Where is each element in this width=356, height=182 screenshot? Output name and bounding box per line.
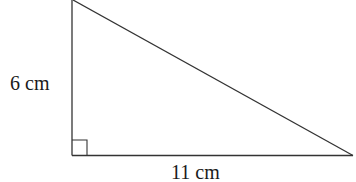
triangle-diagram [0,0,356,182]
hypotenuse [73,0,353,156]
height-label: 6 cm [10,73,49,93]
right-angle-marker [72,140,87,156]
base-label: 11 cm [171,162,220,182]
